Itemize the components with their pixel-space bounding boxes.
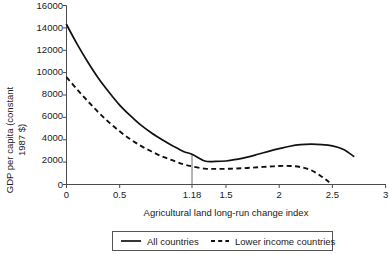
legend-label-all-countries: All countries: [147, 236, 199, 247]
y-axis-ticks: [63, 6, 67, 185]
y-tick-label-12000: 12000: [37, 44, 63, 55]
x-tick-label-2-5: 2.5: [326, 189, 339, 200]
y-tick-label-16000: 16000: [37, 0, 63, 11]
x-tick-label-0: 0: [64, 189, 69, 200]
x-tick-label-1-18: 1.18: [183, 189, 202, 200]
y-tick-label-10000: 10000: [37, 66, 63, 77]
line-chart: GDP per capita (constant 1987 $) 16000 1…: [0, 0, 389, 254]
x-axis-ticks: [67, 185, 386, 189]
y-tick-label-2000: 2000: [42, 154, 63, 165]
x-axis-title: Agricultural land long-run change index: [144, 207, 309, 218]
x-tick-label-2: 2: [277, 189, 282, 200]
chart-legend: All countries Lower income countries: [113, 232, 336, 251]
x-tick-label-0-5: 0.5: [113, 189, 126, 200]
series-line-lower-income-countries: [67, 77, 330, 182]
x-tick-label-1-5: 1.5: [219, 189, 232, 200]
y-tick-label-0: 0: [58, 179, 63, 190]
legend-label-lower-income-countries: Lower income countries: [235, 236, 336, 247]
y-axis-title-line2: 1987 $): [16, 124, 27, 156]
x-tick-label-3: 3: [383, 189, 388, 200]
y-tick-label-8000: 8000: [42, 88, 63, 99]
series-line-all-countries: [67, 25, 354, 162]
y-axis-title-line1: GDP per capita (constant: [4, 86, 15, 193]
chart-figure: GDP per capita (constant 1987 $) 16000 1…: [0, 0, 389, 254]
y-tick-label-6000: 6000: [42, 110, 63, 121]
y-tick-label-4000: 4000: [42, 132, 63, 143]
y-tick-label-14000: 14000: [37, 22, 63, 33]
